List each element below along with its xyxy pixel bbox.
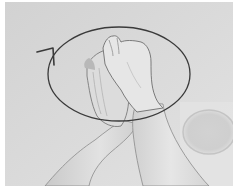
photo-canvas [5,2,233,186]
background-object [183,110,233,154]
hand-rotation-photo [5,2,233,186]
